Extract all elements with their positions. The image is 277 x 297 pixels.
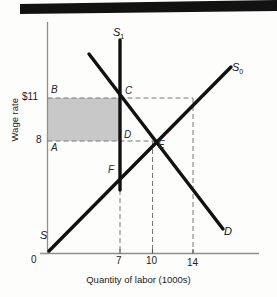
top-scan-bar bbox=[20, 0, 277, 14]
y-axis-title: Wage rate bbox=[10, 88, 20, 152]
x-tick-label-10: 10 bbox=[146, 256, 157, 266]
curve-label-s1-subscript: 1 bbox=[120, 33, 124, 40]
x-tick-label-14: 14 bbox=[187, 258, 198, 268]
demand-curve bbox=[89, 54, 223, 229]
economic-rent-shaded-region bbox=[48, 98, 121, 141]
point-label-b: B bbox=[51, 85, 58, 95]
x-tick-label-7: 7 bbox=[116, 256, 122, 266]
y-tick-label-11: $11 bbox=[22, 92, 38, 102]
curve-label-s0: S0 bbox=[232, 62, 243, 75]
curve-label-s0-subscript: 0 bbox=[239, 68, 243, 75]
chart-canvas bbox=[0, 0, 277, 297]
point-label-d: D bbox=[124, 130, 131, 140]
supply-curve-s0 bbox=[49, 67, 231, 251]
curve-label-demand: D bbox=[224, 226, 232, 237]
point-label-c: C bbox=[125, 86, 132, 96]
x-axis-title: Quantity of labor (1000s) bbox=[0, 275, 277, 285]
y-tick-label-8: 8 bbox=[36, 135, 42, 145]
point-label-a: A bbox=[51, 143, 58, 153]
supply-demand-figure: Wage rate Quantity of labor (1000s) 0 $1… bbox=[0, 0, 277, 297]
point-label-f: F bbox=[108, 165, 114, 175]
curve-label-s1: S1 bbox=[113, 27, 124, 40]
curve-label-supply-origin: S bbox=[40, 230, 47, 241]
origin-tick-label: 0 bbox=[31, 255, 37, 265]
point-label-e: E bbox=[158, 140, 165, 150]
